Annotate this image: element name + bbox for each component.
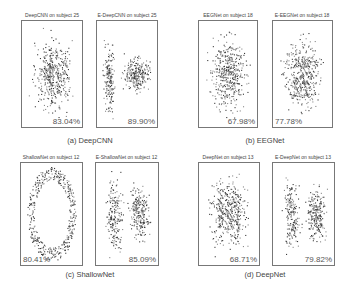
subplot-title: EEGNet on subject 18 [193,12,263,18]
scatter-points [96,163,158,265]
subplot-title: E-EEGNet on subject 18 [267,12,337,18]
accuracy-label: 89.90% [128,117,155,126]
accuracy-label: 80.41% [23,255,50,264]
accuracy-label: 85.09% [129,255,156,264]
scatter-plot: 85.09% [95,162,159,266]
subplot-title: E-ShallowNet on subject 12 [89,154,164,160]
figure-caption: (d) DeepNet [215,270,315,279]
scatter-points [199,21,257,127]
figure-caption: (a) DeepCNN [40,136,140,145]
scatter-plot: 68.71% [198,162,260,266]
scatter-plot: 67.98% [198,20,258,128]
subplot-title: DeepNet on subject 13 [193,154,263,160]
subplot-title: E-DeepNet on subject 13 [268,154,338,160]
accuracy-label: 67.98% [228,117,255,126]
scatter-points [22,21,82,127]
accuracy-label: 77.78% [275,117,302,126]
scatter-points [273,21,332,127]
scatter-plot: 79.82% [272,162,335,266]
scatter-plot: 89.90% [96,20,158,128]
accuracy-label: 83.04% [53,117,80,126]
scatter-points [199,163,259,265]
figure-caption: (c) ShallowNet [40,270,140,279]
scatter-plot: 77.78% [272,20,333,128]
scatter-plot: 83.04% [21,20,83,128]
subplot-title: ShallowNet on subject 12 [16,154,86,160]
subplot-title: E-DeepCNN on subject 25 [91,12,163,18]
figure-caption: (b) EEGNet [215,136,315,145]
scatter-plot: 80.41% [20,162,83,266]
scatter-points [273,163,334,265]
accuracy-label: 79.82% [305,255,332,264]
subplot-title: DeepCNN on subject 25 [17,12,87,18]
accuracy-label: 68.71% [230,255,257,264]
scatter-points [21,163,82,265]
scatter-points [97,21,157,127]
